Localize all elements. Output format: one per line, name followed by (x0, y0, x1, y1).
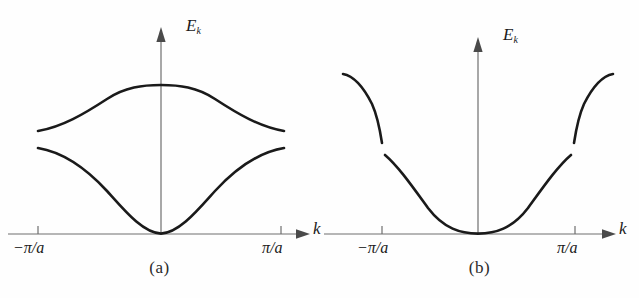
tick-label-minus-pi-over-a-b: −π/a (357, 239, 388, 257)
tick-label-minus-pi-over-a-a: −π/a (13, 239, 44, 257)
band-structure-figure: Ek −π/a π/a k (a) Ek (0, 0, 639, 298)
y-axis-label-b: Ek (503, 25, 518, 45)
y-axis-label-a: Ek (186, 16, 201, 36)
tick-label-pi-over-a-a: π/a (262, 239, 282, 257)
panel-b: Ek −π/a π/a k (b) (320, 0, 639, 298)
tick-label-pi-over-a-b: π/a (557, 239, 577, 257)
curve-second-zone-right-branch-b (574, 74, 613, 143)
curve-second-zone-left-branch-b (343, 74, 382, 143)
panel-a: Ek −π/a π/a k (a) (0, 0, 319, 298)
panel-a-caption: (a) (0, 258, 319, 278)
y-axis-b (473, 37, 482, 234)
y-axis-a (156, 27, 165, 234)
panel-b-caption: (b) (320, 258, 639, 278)
x-axis-label-b: k (619, 219, 627, 239)
